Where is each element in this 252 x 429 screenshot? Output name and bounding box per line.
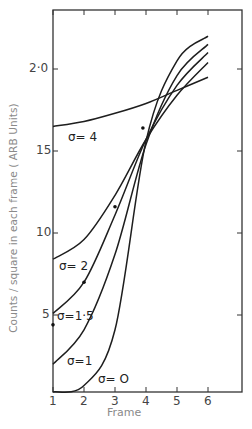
data-points [51, 126, 145, 326]
x-tick-label: 1 [49, 394, 57, 408]
curve-2 [53, 62, 208, 259]
y-axis-label: Counts / square in each frame ( ARB Unit… [7, 103, 19, 333]
x-tick-label: 4 [142, 394, 150, 408]
curve-0 [53, 36, 208, 392]
y-tick-label: 2·0 [29, 61, 48, 75]
x-tick-label: 6 [204, 394, 212, 408]
y-tick-label: 5 [42, 307, 50, 321]
curves [53, 36, 208, 392]
x-tick-label: 5 [173, 394, 181, 408]
data-point [51, 323, 55, 327]
curve-4 [53, 77, 208, 126]
curve-label-sigma-1: σ=1 [67, 354, 92, 368]
x-tick-label: 3 [111, 394, 119, 408]
curve-label-sigma-4: σ= 4 [68, 130, 97, 144]
data-point [113, 205, 117, 209]
x-tick-label: 2 [80, 394, 88, 408]
data-point [141, 126, 145, 130]
curve-1-5 [53, 53, 208, 314]
data-point [82, 280, 86, 284]
y-tick-label: 10 [36, 225, 51, 239]
curve-label-sigma-0: σ= O [98, 372, 129, 386]
y-tick-label: 15 [36, 143, 51, 157]
curve-label-sigma-2: σ= 2 [59, 259, 88, 273]
curve-label-sigma-1-5: σ=1·5 [57, 309, 94, 323]
